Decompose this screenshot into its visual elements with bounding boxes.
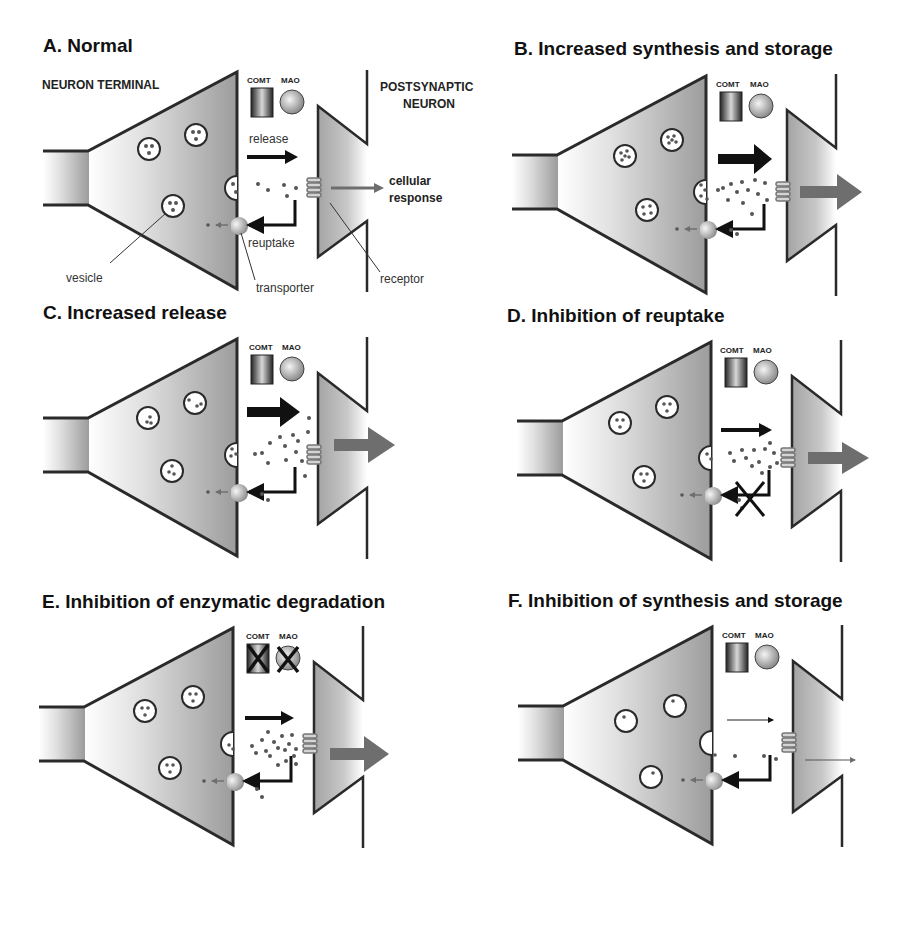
postsynaptic-label-2: NEURON (403, 97, 455, 111)
reuptake-label: reuptake (248, 236, 295, 250)
neurotransmission-figure: A. Normal NEURON TERMINAL POSTSYNAPTIC N… (0, 0, 920, 929)
panel-b-increased-synthesis: B. Increased synthesis and storage (514, 38, 833, 59)
mao-label: MAO (279, 632, 298, 641)
mao-label: MAO (755, 631, 774, 640)
mao-label: MAO (282, 343, 301, 352)
panel-title: B. Increased synthesis and storage (514, 38, 833, 59)
release-label: release (249, 132, 289, 146)
panel-title: E. Inhibition of enzymatic degradation (42, 591, 385, 612)
transporter-label: transporter (256, 281, 314, 295)
cellular-response-label: cellular (389, 174, 431, 188)
panel-title: D. Inhibition of reuptake (507, 305, 724, 326)
panel-e-enzyme-inhibition: E. Inhibition of enzymatic degradation C… (39, 591, 389, 848)
mao-label: MAO (753, 346, 772, 355)
receptor-label: receptor (380, 272, 424, 286)
panel-title: F. Inhibition of synthesis and storage (508, 590, 843, 611)
mao-label: MAO (281, 76, 300, 85)
comt-label: COMT (249, 343, 273, 352)
panel-title: A. Normal (43, 35, 133, 56)
release-arrow (247, 150, 298, 164)
vesicle-label: vesicle (66, 271, 103, 285)
postsynaptic-label: POSTSYNAPTIC (380, 80, 474, 94)
neuron-terminal-label: NEURON TERMINAL (42, 78, 159, 92)
comt-label: COMT (720, 346, 744, 355)
panel-c-increased-release: C. Increased release COMT MAO (43, 302, 395, 559)
panel-a-normal: A. Normal NEURON TERMINAL POSTSYNAPTIC N… (42, 35, 474, 295)
panel-d-reuptake-inhibition: D. Inhibition of reuptake COMT MAO (507, 305, 869, 562)
comt-label: COMT (716, 80, 740, 89)
panel-title: C. Increased release (43, 302, 227, 323)
comt-label: COMT (246, 632, 270, 641)
mao-label: MAO (750, 80, 769, 89)
comt-label: COMT (247, 76, 271, 85)
panel-f-decreased-synthesis: F. Inhibition of synthesis and storage C… (508, 590, 855, 847)
comt-label: COMT (722, 631, 746, 640)
cellular-response-label-2: response (389, 191, 443, 205)
